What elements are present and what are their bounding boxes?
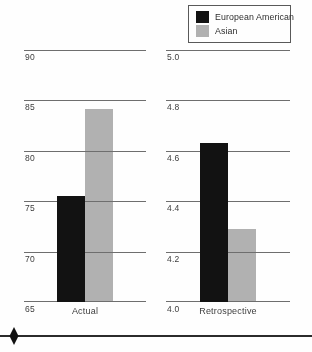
bar-asian-actual	[85, 109, 113, 302]
retrospective-panel: 5.04.84.64.44.24.0	[166, 50, 290, 302]
gridline-4.6	[166, 151, 290, 152]
legend-item-asian: Asian	[196, 25, 290, 37]
diamond-ornament-icon	[8, 327, 20, 345]
gridline-70	[24, 252, 146, 253]
y-tick-label-85: 85	[25, 103, 35, 112]
y-tick-label-90: 90	[25, 53, 35, 62]
y-tick-label-4.8: 4.8	[167, 103, 179, 112]
x-axis-label-retrospective: Retrospective	[166, 306, 290, 316]
legend-swatch-european-american	[196, 11, 209, 23]
y-tick-label-70: 70	[25, 255, 35, 264]
legend-label-european-american: European American	[215, 12, 294, 22]
y-tick-label-4.6: 4.6	[167, 154, 179, 163]
gridline-85	[24, 100, 146, 101]
bar-asian-retrospective	[228, 229, 256, 302]
bar-european-american-actual	[57, 196, 85, 302]
legend-item-european-american: European American	[196, 11, 290, 23]
y-tick-label-5.0: 5.0	[167, 53, 179, 62]
legend-swatch-asian	[196, 25, 209, 37]
legend-label-asian: Asian	[215, 26, 238, 36]
gridline-65	[24, 301, 146, 302]
y-tick-label-65: 65	[25, 305, 35, 314]
bar-european-american-retrospective	[200, 143, 228, 302]
gridline-80	[24, 151, 146, 152]
x-axis-label-actual: Actual	[24, 306, 146, 316]
gridline-4.2	[166, 252, 290, 253]
bar-chart-figure: European American Asian 908580757065 5.0…	[0, 0, 312, 352]
gridline-5.0	[166, 50, 290, 51]
y-tick-label-75: 75	[25, 204, 35, 213]
chart-legend: European American Asian	[188, 5, 291, 43]
y-tick-label-4.0: 4.0	[167, 305, 179, 314]
actual-panel: 908580757065	[24, 50, 146, 302]
gridline-4.0	[166, 301, 290, 302]
gridline-4.8	[166, 100, 290, 101]
gridline-90	[24, 50, 146, 51]
gridline-75	[24, 201, 146, 202]
bottom-rule-line	[0, 335, 312, 337]
gridline-4.4	[166, 201, 290, 202]
y-tick-label-4.4: 4.4	[167, 204, 179, 213]
y-tick-label-4.2: 4.2	[167, 255, 179, 264]
y-tick-label-80: 80	[25, 154, 35, 163]
